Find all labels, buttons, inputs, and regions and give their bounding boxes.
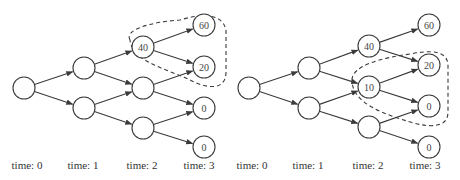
edge-arrow (94, 112, 131, 125)
edge-arrow (153, 29, 192, 43)
node-value: 20 (199, 62, 209, 73)
tree-node (358, 116, 380, 138)
edge-arrow (153, 50, 192, 63)
edge-arrow (319, 111, 357, 123)
edge-arrow (259, 72, 297, 85)
right-tree-panel: 4010602000time: 0time: 1time: 2time: 3 (237, 14, 448, 171)
edge-arrow (319, 50, 357, 64)
tree-node (132, 117, 154, 139)
edge-arrow (34, 72, 72, 85)
time-label: time: 1 (293, 159, 324, 171)
tree-node (73, 97, 95, 119)
time-label: time: 2 (353, 159, 384, 171)
node-value: 0 (427, 142, 432, 153)
edge-arrow (379, 49, 417, 61)
edge-arrow (379, 69, 417, 83)
time-label: time: 1 (68, 159, 99, 171)
time-label: time: 2 (127, 159, 158, 171)
tree-node (73, 57, 95, 79)
node-value: 0 (202, 142, 207, 153)
edge-arrow (379, 110, 417, 123)
edge-arrow (153, 91, 192, 104)
node-value: 10 (364, 82, 374, 93)
edge-arrow (319, 91, 357, 104)
tree-node (298, 57, 320, 79)
edge-arrow (379, 29, 417, 42)
node-value: 60 (424, 20, 434, 31)
time-label: time: 0 (237, 159, 268, 171)
tree-node (132, 77, 154, 99)
node-value: 40 (364, 41, 374, 52)
time-label: time: 3 (410, 159, 441, 171)
time-label: time: 3 (184, 159, 215, 171)
edge-arrow (259, 91, 297, 104)
binomial-tree-diagram: 40602000time: 0time: 1time: 2time: 3 401… (0, 0, 460, 180)
node-value: 0 (427, 101, 432, 112)
node-value: 40 (138, 42, 148, 53)
tree-node (238, 77, 260, 99)
left-tree-panel: 40602000time: 0time: 1time: 2time: 3 (12, 14, 226, 171)
node-value: 60 (199, 20, 209, 31)
tree-node (298, 97, 320, 119)
tree-node (13, 77, 35, 99)
edge-arrow (94, 72, 131, 85)
edge-arrow (34, 91, 72, 104)
node-value: 20 (424, 60, 434, 71)
edge-arrow (379, 130, 417, 143)
time-label: time: 0 (12, 159, 43, 171)
edge-arrow (154, 131, 193, 143)
node-value: 0 (202, 103, 207, 114)
edge-arrow (94, 92, 131, 105)
edge-arrow (94, 51, 131, 64)
edge-arrow (153, 112, 192, 125)
edge-arrow (379, 90, 417, 102)
